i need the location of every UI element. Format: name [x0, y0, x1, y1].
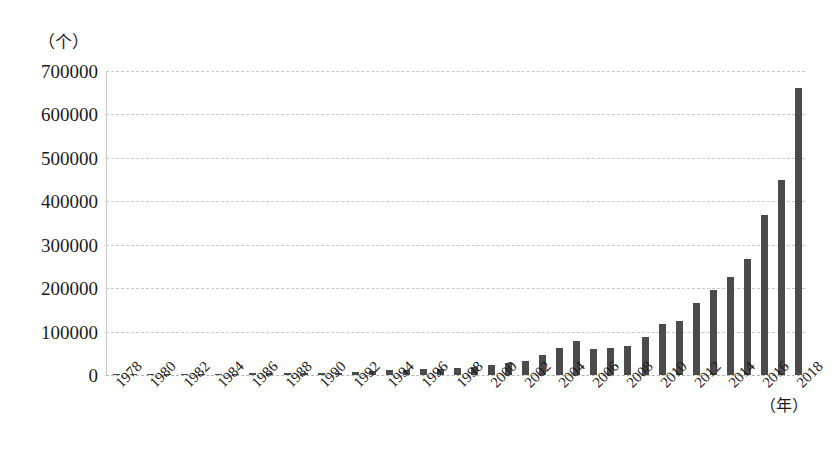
bar-chart: （个） 700000600000500000400000300000200000…: [0, 0, 833, 457]
x-axis-unit-label: （年）: [760, 392, 808, 416]
gridline: [106, 201, 805, 202]
gridline: [106, 71, 805, 72]
bar: [727, 277, 734, 375]
plot-area: [106, 71, 805, 375]
bar: [761, 215, 768, 375]
bar: [693, 303, 700, 375]
y-axis-tick-label: 400000: [0, 192, 98, 211]
y-axis-tick-label: 500000: [0, 149, 98, 168]
y-axis-tick-label: 700000: [0, 62, 98, 81]
bar: [795, 88, 802, 375]
bar: [744, 259, 751, 375]
y-axis-tick-label: 100000: [0, 323, 98, 342]
y-axis-tick-label: 300000: [0, 236, 98, 255]
y-axis-tick-label: 200000: [0, 279, 98, 298]
y-axis-tick-label: 600000: [0, 105, 98, 124]
gridline: [106, 288, 805, 289]
gridline: [106, 245, 805, 246]
gridline: [106, 332, 805, 333]
y-axis-unit-label: （个）: [38, 28, 89, 53]
gridline: [106, 158, 805, 159]
bar: [659, 324, 666, 375]
bar: [778, 180, 785, 375]
y-axis-tick-label: 0: [0, 366, 98, 385]
gridline: [106, 114, 805, 115]
